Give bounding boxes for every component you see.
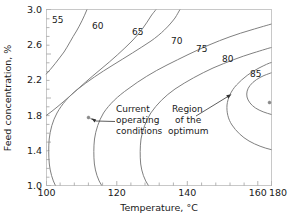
contour-label-85: 85 [250,69,261,79]
current-operating-conditions-line1: Current [116,104,150,114]
contour-label-70: 70 [171,36,183,46]
contour-label-65: 65 [132,27,143,37]
region-of-the-optimum-line1: Region [172,104,203,114]
current-operating-conditions-line2: operating [116,115,159,125]
current-operating-conditions-marker [87,116,90,119]
region-of-the-optimum-line3: optimum [168,126,209,136]
contour-label-80: 80 [222,54,234,64]
x-tick-label-120: 120 [108,187,126,198]
y-tick-label-1-4: 1.4 [27,145,42,156]
x-axis-title: Temperature, °C [119,202,198,213]
current-operating-conditions-line3: conditions [116,126,163,136]
contour-plot-figure: 55 60 65 70 75 80 85 Current operating c… [0,0,288,218]
y-tick-label-2-2: 2.2 [27,74,42,85]
y-tick-label-3-0: 3.0 [27,4,42,15]
region-of-the-optimum-marker [268,101,271,104]
x-tick-label-140: 140 [178,187,196,198]
y-tick-label-1-8: 1.8 [27,110,42,121]
y-tick-label-1-0: 1.0 [27,180,42,191]
x-axis-tick-labels: 100 120 140 160 180 [37,187,287,198]
y-axis-tick-labels: 1.0 1.4 1.8 2.2 2.6 3.0 [27,4,42,191]
y-axis-title: Feed concentration, % [2,45,13,152]
x-tick-label-180: 180 [269,187,287,198]
chart-canvas: 55 60 65 70 75 80 85 Current operating c… [0,0,288,218]
contour-label-55: 55 [52,15,63,25]
x-tick-label-160: 160 [249,187,267,198]
contour-label-75: 75 [196,44,207,54]
y-tick-label-2-6: 2.6 [27,39,42,50]
plot-area-background [46,9,272,186]
contour-label-60: 60 [92,21,104,31]
region-of-the-optimum-line2: of the [175,115,202,125]
